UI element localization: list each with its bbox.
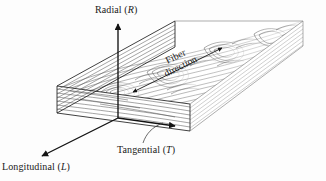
label-tangential-text: Tangential ( xyxy=(117,144,166,155)
label-radial-text: Radial ( xyxy=(95,4,128,15)
label-tangential-axis: Tangential (T) xyxy=(117,144,175,155)
label-tangential-close: ) xyxy=(172,144,175,155)
label-radial-close: ) xyxy=(134,4,137,15)
label-radial-axis: Radial (R) xyxy=(95,4,137,15)
wood-axes-figure: Radial (R) Longitudinal (L) Tangential (… xyxy=(0,0,326,181)
label-longitudinal-axis: Longitudinal (L) xyxy=(2,161,70,172)
axis-longitudinal xyxy=(42,118,118,156)
label-longitudinal-text: Longitudinal ( xyxy=(2,161,61,172)
label-longitudinal-close: ) xyxy=(67,161,70,172)
